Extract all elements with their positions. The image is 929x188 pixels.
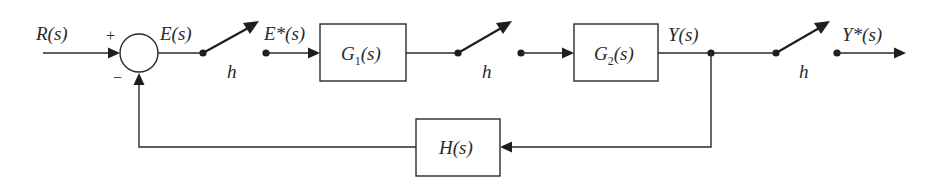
sampled-output-arrowhead [894, 48, 906, 59]
minus-sign: − [113, 69, 122, 86]
input-label: R(s) [35, 23, 68, 45]
sampler-1-arrowhead [243, 21, 259, 34]
sampler-2-label: h [482, 61, 492, 82]
summing-junction [120, 34, 158, 72]
sampler-3: h [772, 21, 840, 82]
error-label: E(s) [159, 23, 192, 45]
plus-sign: + [106, 27, 115, 44]
sampler-2-arrowhead [496, 21, 512, 34]
block-g2: G2(s) [574, 24, 658, 81]
sampler-1: h [199, 21, 269, 82]
g2-input-arrowhead [562, 48, 574, 59]
sampler-1-arm [203, 27, 250, 53]
sampler-2: h [454, 21, 524, 82]
sampler-3-label: h [799, 61, 809, 82]
block-h: H(s) [416, 119, 500, 176]
sampled-output-label: Y*(s) [842, 24, 882, 46]
sampled-error-label: E*(s) [263, 23, 305, 45]
sampler-3-arm [776, 27, 821, 53]
g1-input-arrowhead [308, 48, 320, 59]
output-label: Y(s) [668, 24, 699, 46]
sampler-1-label: h [227, 61, 237, 82]
feedback-line-left [139, 84, 416, 147]
input-arrowhead [108, 48, 120, 59]
sampler-2-arm [458, 27, 503, 53]
h-input-arrowhead [500, 142, 512, 153]
block-diagram: R(s) + − E(s) h E*(s) G1(s) h G2(s) Y(s [0, 0, 929, 188]
sampler-3-arrowhead [814, 21, 830, 34]
feedback-arrowhead [134, 73, 145, 85]
block-h-label: H(s) [438, 137, 473, 159]
block-g1: G1(s) [320, 24, 406, 81]
